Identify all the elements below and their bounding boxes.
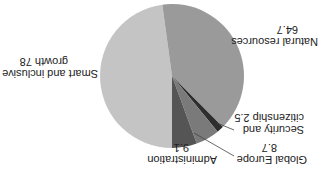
label-global: Global Europe8.7 [237, 142, 307, 166]
pie-chart: Smart and inclusivegrowth 78 Natural res… [0, 0, 329, 178]
label-admin: Administration9.1 [147, 142, 217, 166]
pie-slice [100, 5, 172, 148]
label-natural: Natural resources64.7 [231, 24, 318, 48]
label-smart: Smart and inclusivegrowth 78 [2, 56, 98, 80]
label-security: Security andcitizenship 2.5 [234, 112, 304, 136]
